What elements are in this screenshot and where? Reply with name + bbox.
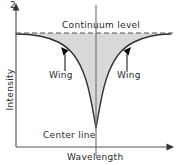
continuum-level-label: Continuum level	[62, 21, 140, 30]
wing-left-label: Wing	[49, 71, 73, 80]
center-line-label: Center line	[43, 131, 96, 140]
x-axis-arrow-icon	[167, 144, 175, 151]
spectral-line-profile-figure: 2 Continuum level Wing Wing Center line …	[0, 0, 177, 165]
x-axis-label: Wavelength	[67, 153, 123, 162]
corner-label: 2	[10, 1, 16, 10]
y-axis-label: Intensity	[6, 62, 15, 118]
wing-right-label: Wing	[117, 71, 141, 80]
